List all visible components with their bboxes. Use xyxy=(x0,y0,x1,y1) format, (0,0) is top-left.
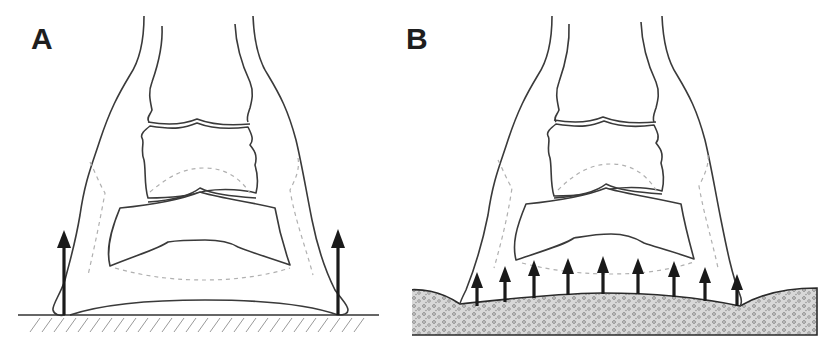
force-arrow-1 xyxy=(471,272,483,306)
panel-b-soft-ground: B xyxy=(412,0,824,342)
force-arrow-4 xyxy=(562,258,574,295)
force-arrow-7 xyxy=(668,261,680,297)
ground-hatching xyxy=(30,318,364,332)
force-arrow-5 xyxy=(597,256,609,294)
soft-ground xyxy=(412,288,817,335)
hoof-diagram-a xyxy=(0,0,412,342)
sole-line xyxy=(70,300,338,315)
pastern-inner-left xyxy=(555,24,569,122)
force-arrow-6 xyxy=(632,258,644,294)
force-arrow-2 xyxy=(499,266,511,302)
force-arrow-3 xyxy=(528,260,540,298)
sole-corium-outline xyxy=(115,268,290,280)
distal-phalanx xyxy=(108,192,290,266)
lateral-cartilage-right xyxy=(290,158,313,275)
hoof-diagram-b xyxy=(412,0,825,342)
middle-phalanx xyxy=(142,123,258,198)
pastern-inner-left xyxy=(148,26,162,122)
lateral-cartilage-right xyxy=(699,155,718,268)
distal-phalanx xyxy=(514,188,694,260)
panel-a-hard-ground: A xyxy=(0,0,412,342)
pastern-inner-right xyxy=(641,22,658,122)
hoof-wall-left xyxy=(460,16,552,304)
force-arrow-left xyxy=(57,230,71,315)
hoof-wall-right xyxy=(253,16,348,315)
pastern-inner-right xyxy=(235,24,252,122)
force-arrow-8 xyxy=(699,267,711,301)
hoof-wall-left xyxy=(53,16,144,315)
lateral-cartilage-left xyxy=(88,162,105,275)
force-arrow-right xyxy=(331,229,345,315)
